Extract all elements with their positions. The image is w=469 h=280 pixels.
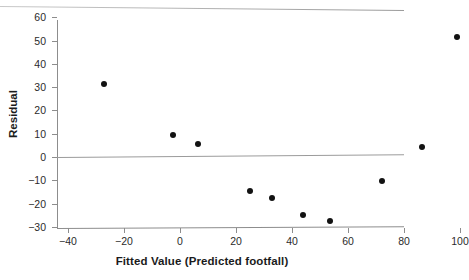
x-tick-label: 100 xyxy=(451,236,469,247)
y-tick-label: 0 xyxy=(40,152,46,163)
y-tick-label: 20 xyxy=(34,105,46,116)
data-point xyxy=(247,188,253,194)
data-point xyxy=(101,81,107,87)
x-tick-label: 20 xyxy=(230,236,242,247)
x-axis-title: Fitted Value (Predicted footfall) xyxy=(0,255,404,267)
x-tick-label: 40 xyxy=(286,236,298,247)
y-axis-title: Residual xyxy=(7,74,19,154)
y-tick-label: −30 xyxy=(28,222,46,233)
x-tick-label: 80 xyxy=(398,236,410,247)
page-top-rule xyxy=(0,6,404,11)
y-tick xyxy=(52,17,57,18)
x-tick xyxy=(460,228,461,233)
data-point xyxy=(327,218,333,224)
y-tick-label: 60 xyxy=(34,12,46,23)
x-tick xyxy=(124,228,125,233)
y-tick-label: 50 xyxy=(34,36,46,47)
x-tick-label: −20 xyxy=(115,236,133,247)
x-tick-label: −40 xyxy=(59,236,77,247)
data-point xyxy=(419,144,425,150)
x-tick xyxy=(236,228,237,233)
data-point xyxy=(454,34,460,40)
y-tick-label: −10 xyxy=(28,175,46,186)
data-point xyxy=(195,141,201,147)
y-tick-label: 30 xyxy=(34,82,46,93)
data-point xyxy=(269,195,275,201)
data-point xyxy=(300,212,306,218)
data-point xyxy=(170,132,176,138)
y-tick-label: −20 xyxy=(28,199,46,210)
y-tick-label: 10 xyxy=(34,129,46,140)
x-tick-label: 0 xyxy=(177,236,183,247)
x-tick xyxy=(180,228,181,233)
x-tick xyxy=(292,228,293,233)
x-tick xyxy=(404,228,405,233)
data-point xyxy=(379,178,385,184)
x-tick-label: 60 xyxy=(342,236,354,247)
x-tick xyxy=(348,228,349,233)
data-points-layer xyxy=(57,20,404,228)
y-tick-label: 40 xyxy=(34,59,46,70)
x-tick xyxy=(68,228,69,233)
